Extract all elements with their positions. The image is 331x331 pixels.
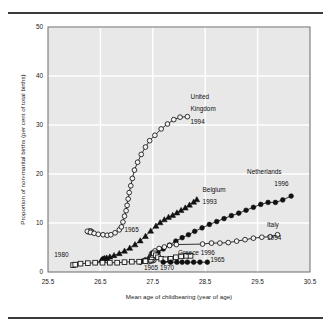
y-tick-label: 30 bbox=[36, 121, 44, 128]
annotation-gr: Greece 1996 bbox=[178, 249, 215, 256]
x-tick-label: 30.5 bbox=[304, 278, 317, 285]
y-tick-label: 50 bbox=[36, 23, 44, 30]
y-tick-label: 10 bbox=[36, 219, 44, 226]
x-tick-label: 26.5 bbox=[94, 278, 107, 285]
annotation-be: Belgium bbox=[203, 186, 226, 194]
x-tick-label: 27.5 bbox=[147, 278, 160, 285]
chart-plot-wrapper: 25.526.527.528.529.530.501020304050 Unit… bbox=[0, 0, 331, 331]
annotation-it: Italy bbox=[267, 221, 280, 229]
x-tick-label: 25.5 bbox=[42, 278, 55, 285]
x-tick-label: 29.5 bbox=[251, 278, 264, 285]
annotation-y80: 1980 bbox=[54, 251, 69, 258]
annotation-uk3: 1994 bbox=[191, 118, 206, 125]
annotation-g65: 1965 bbox=[210, 256, 225, 263]
annotation-nl: Netherlands bbox=[247, 168, 281, 175]
annotation-uk2: Kingdom bbox=[191, 105, 216, 113]
x-axis-title: Mean age of childbearing (year of age) bbox=[126, 293, 232, 300]
annotation-y65: 1965 bbox=[125, 226, 140, 233]
y-tick-label: 20 bbox=[36, 170, 44, 177]
non-marital-births-scatter-line-chart: 25.526.527.528.529.530.501020304050 Unit… bbox=[0, 0, 331, 331]
y-tick-label: 0 bbox=[39, 268, 43, 275]
annotation-uk: United bbox=[191, 93, 210, 100]
y-axis-title: Proportion of non-marital births (per ce… bbox=[19, 74, 26, 224]
annotation-y6570: 1965 1970 bbox=[144, 264, 175, 271]
annotation-nl2: 1996 bbox=[274, 180, 289, 187]
y-tick-label: 40 bbox=[36, 72, 44, 79]
x-tick-label: 28.5 bbox=[199, 278, 212, 285]
figure-container: 25.526.527.528.529.530.501020304050 Unit… bbox=[0, 0, 331, 331]
annotation-it2: 1994 bbox=[267, 234, 282, 241]
annotation-be2: 1993 bbox=[203, 198, 218, 205]
